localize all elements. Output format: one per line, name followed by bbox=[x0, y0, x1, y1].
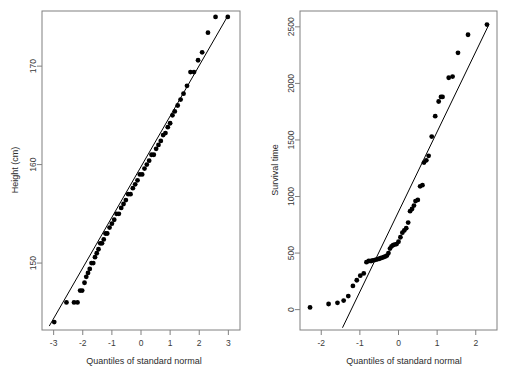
y-tick-label: 2500 bbox=[286, 17, 296, 36]
data-point bbox=[433, 114, 438, 119]
data-point bbox=[424, 158, 429, 163]
plot-frame-rect bbox=[300, 11, 497, 330]
y-axis-ticks bbox=[295, 27, 300, 310]
data-point bbox=[456, 50, 461, 55]
data-point bbox=[341, 298, 346, 303]
survival-qqplot-svg: 05001000150020002500 -2-1012 Survival ti… bbox=[256, 0, 513, 377]
data-point bbox=[123, 198, 128, 203]
data-point bbox=[420, 183, 425, 188]
data-point bbox=[450, 74, 455, 79]
data-point bbox=[361, 271, 366, 276]
data-point bbox=[225, 15, 230, 20]
reference-line bbox=[342, 25, 488, 328]
data-point bbox=[80, 288, 85, 293]
data-point bbox=[185, 83, 190, 88]
data-point bbox=[147, 158, 152, 163]
x-axis-title: Quantiles of standard normal bbox=[346, 356, 462, 366]
data-point bbox=[354, 278, 359, 283]
data-point bbox=[398, 235, 403, 240]
x-tick-label: -1 bbox=[356, 338, 364, 348]
data-point bbox=[326, 302, 331, 307]
reference-line bbox=[49, 15, 228, 326]
data-point bbox=[128, 192, 133, 197]
data-point bbox=[96, 247, 101, 252]
y-tick-label: 160 bbox=[28, 157, 38, 171]
data-point bbox=[140, 172, 145, 177]
data-point bbox=[200, 50, 205, 55]
data-point bbox=[116, 211, 121, 216]
data-point bbox=[466, 32, 471, 37]
data-point bbox=[181, 91, 186, 96]
x-tick-label: 2 bbox=[197, 338, 202, 348]
x-tick-label: 0 bbox=[396, 338, 401, 348]
data-point bbox=[101, 237, 106, 242]
panel-survival-qqplot: 05001000150020002500 -2-1012 Survival ti… bbox=[256, 0, 513, 377]
x-tick-label: 1 bbox=[168, 338, 173, 348]
data-point bbox=[178, 97, 183, 102]
y-tick-label: 2000 bbox=[286, 74, 296, 93]
data-point bbox=[64, 300, 69, 305]
x-tick-label: -3 bbox=[50, 338, 58, 348]
data-point bbox=[412, 203, 417, 208]
data-point bbox=[426, 153, 431, 158]
y-tick-label: 500 bbox=[286, 246, 296, 260]
data-point bbox=[196, 58, 201, 63]
plot-frame-rect bbox=[42, 11, 240, 330]
x-tick-label: 1 bbox=[435, 338, 440, 348]
y-tick-label: 150 bbox=[28, 256, 38, 270]
data-point bbox=[75, 300, 80, 305]
data-point bbox=[335, 300, 340, 305]
data-point bbox=[52, 320, 57, 325]
height-qqplot-svg: 150160170 -3-2-10123 Height (cm) Quantil… bbox=[0, 0, 256, 377]
data-point bbox=[404, 226, 409, 231]
data-point bbox=[415, 198, 420, 203]
x-tick-label: 2 bbox=[473, 338, 478, 348]
data-point bbox=[308, 305, 313, 310]
x-tick-label: -2 bbox=[317, 338, 325, 348]
x-axis-tick-labels: -3-2-10123 bbox=[50, 338, 231, 348]
y-tick-label: 1000 bbox=[286, 187, 296, 206]
qq-plot-figure: 150160170 -3-2-10123 Height (cm) Quantil… bbox=[0, 0, 513, 377]
y-tick-label: 170 bbox=[28, 59, 38, 73]
x-axis-ticks bbox=[321, 330, 476, 335]
y-tick-label: 0 bbox=[286, 307, 296, 312]
x-tick-label: 3 bbox=[226, 338, 231, 348]
y-axis-tick-labels: 05001000150020002500 bbox=[286, 17, 296, 312]
data-point bbox=[175, 103, 180, 108]
data-point bbox=[386, 251, 391, 256]
data-points bbox=[308, 22, 490, 310]
panel-height-qqplot: 150160170 -3-2-10123 Height (cm) Quantil… bbox=[0, 0, 256, 377]
data-point bbox=[82, 280, 87, 285]
data-point bbox=[429, 134, 434, 139]
data-point bbox=[158, 139, 163, 144]
plot-frame bbox=[300, 11, 497, 330]
x-tick-label: -2 bbox=[79, 338, 87, 348]
reference-line-segment bbox=[342, 25, 488, 328]
data-point bbox=[91, 261, 96, 266]
data-point bbox=[346, 294, 351, 299]
x-axis-ticks bbox=[54, 330, 229, 335]
reference-line-segment bbox=[49, 15, 228, 326]
y-tick-label: 1500 bbox=[286, 130, 296, 149]
y-axis-tick-labels: 150160170 bbox=[28, 59, 38, 270]
data-point bbox=[168, 121, 173, 126]
data-points bbox=[52, 15, 230, 325]
data-point bbox=[440, 95, 445, 100]
data-point bbox=[151, 152, 156, 157]
data-point bbox=[163, 131, 168, 136]
y-axis-title: Height (cm) bbox=[10, 147, 20, 194]
x-tick-label: -1 bbox=[108, 338, 116, 348]
data-point bbox=[105, 231, 110, 236]
data-point bbox=[396, 239, 401, 244]
data-point bbox=[87, 267, 92, 272]
data-point bbox=[206, 30, 211, 35]
x-axis-tick-labels: -2-1012 bbox=[317, 338, 478, 348]
data-point bbox=[172, 109, 177, 114]
data-point bbox=[485, 22, 490, 27]
x-tick-label: 0 bbox=[139, 338, 144, 348]
data-point bbox=[135, 178, 140, 183]
data-point bbox=[351, 283, 356, 288]
data-point bbox=[112, 217, 117, 222]
y-axis-title: Survival time bbox=[270, 144, 280, 196]
x-axis-title: Quantiles of standard normal bbox=[86, 356, 202, 366]
